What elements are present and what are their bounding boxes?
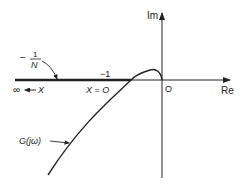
minus-label: − xyxy=(20,52,26,63)
x-zero-label: X = O xyxy=(85,85,109,95)
imaginary-axis-label: Im xyxy=(147,10,158,21)
origin-label: O xyxy=(165,84,172,94)
infinity-symbol: ∞ xyxy=(13,84,20,95)
x-label: X xyxy=(37,85,45,95)
nyquist-diagram: Im Re O − 1 N −1 X = O ∞ X G(jω) xyxy=(0,0,242,193)
real-axis-label: Re xyxy=(221,85,234,96)
frequency-response-label: G(jω) xyxy=(19,136,41,146)
minus-one-label: −1 xyxy=(100,69,110,79)
fraction-denominator: N xyxy=(31,60,38,70)
describing-function-pointer xyxy=(42,61,57,79)
frequency-response-pointer xyxy=(50,141,69,143)
fraction-numerator: 1 xyxy=(33,50,38,59)
